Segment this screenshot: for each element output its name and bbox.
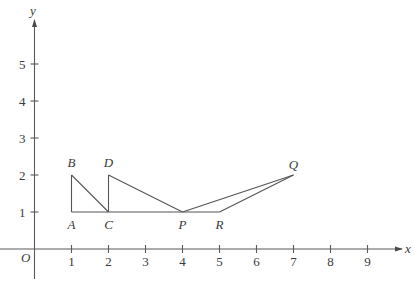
segment-dp	[109, 175, 183, 212]
x-tick-label: 2	[105, 254, 112, 269]
y-ticks: 12345	[19, 57, 39, 220]
point-label-d: D	[103, 155, 114, 170]
x-tick-label: 5	[216, 254, 223, 269]
x-axis-label: x	[404, 241, 411, 256]
point-label-a: A	[67, 217, 76, 232]
point-label-c: C	[104, 217, 113, 232]
x-tick-label: 7	[290, 254, 297, 269]
y-tick-label: 5	[19, 57, 26, 72]
x-tick-label: 3	[142, 254, 149, 269]
axes: x y O	[0, 3, 411, 279]
segment-rq	[220, 175, 294, 212]
segment-bc	[72, 175, 109, 212]
x-tick-label: 9	[364, 254, 371, 269]
x-tick-label: 4	[179, 254, 186, 269]
point-label-r: R	[215, 217, 224, 232]
segment-pq	[183, 175, 294, 212]
point-label-b: B	[68, 155, 76, 170]
origin-label: O	[21, 250, 31, 265]
point-labels: ABCDPQR	[67, 155, 299, 232]
y-tick-label: 4	[19, 94, 26, 109]
x-tick-label: 6	[253, 254, 260, 269]
point-label-q: Q	[289, 157, 299, 172]
y-axis-label: y	[28, 3, 36, 18]
y-tick-label: 3	[19, 131, 26, 146]
x-tick-label: 8	[327, 254, 334, 269]
x-tick-label: 1	[68, 254, 75, 269]
point-label-p: P	[178, 217, 187, 232]
coordinate-diagram: x y O 123456789 12345 ABCDPQR	[0, 0, 415, 283]
y-tick-label: 1	[19, 205, 26, 220]
y-tick-label: 2	[19, 168, 26, 183]
segments	[72, 175, 294, 212]
